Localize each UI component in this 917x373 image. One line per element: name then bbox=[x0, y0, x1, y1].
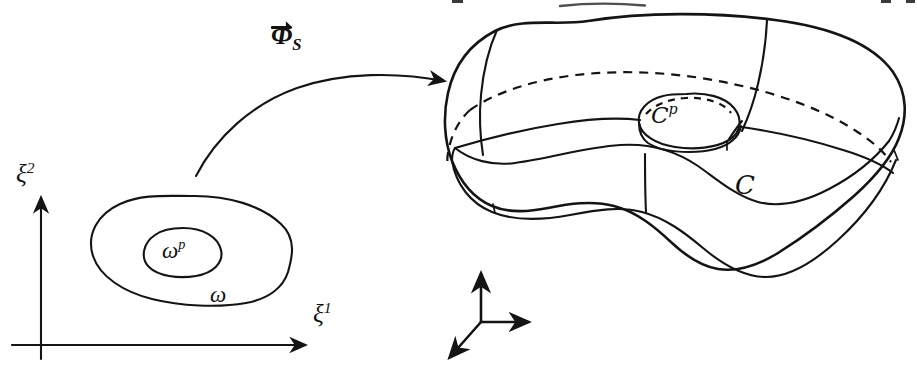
shell-rim-right-cap bbox=[889, 118, 899, 141]
patch-band-tick-left bbox=[640, 125, 641, 132]
region-label-omega-p: ωp bbox=[162, 237, 185, 262]
patch-label-C-p: Cp bbox=[651, 102, 678, 127]
axis-label-xi1: ξ1 bbox=[313, 300, 331, 326]
shell-band-tick-right bbox=[894, 150, 898, 160]
shell-seam-latitude-left bbox=[455, 119, 640, 148]
plane-axes bbox=[12, 198, 305, 359]
axis-label-xi2: ξ2 bbox=[16, 160, 34, 186]
shell-seam-latitude-right bbox=[742, 127, 893, 173]
shell-rim-left-cap bbox=[452, 148, 455, 161]
shell-seam-right bbox=[742, 20, 767, 131]
mapping-arrow bbox=[196, 75, 444, 176]
shell-surface bbox=[445, 14, 905, 277]
surface-label-C: C bbox=[735, 172, 755, 198]
mapping-label-phi: ΦS bbox=[271, 22, 302, 54]
vector-arrow-icon bbox=[271, 10, 293, 24]
omega-region bbox=[91, 196, 292, 306]
triad-axis-out bbox=[450, 322, 481, 357]
coordinate-triad bbox=[450, 274, 528, 357]
shell-silhouette bbox=[445, 14, 905, 270]
shell-seam-front-left bbox=[645, 154, 646, 212]
shell-mapping-figure: ξ2 ξ1 ω ωp ΦS C Cp bbox=[0, 0, 917, 373]
shell-band-bottom bbox=[452, 160, 896, 277]
omega-outline bbox=[91, 196, 292, 306]
scan-artifacts bbox=[452, 0, 915, 6]
figure-canvas bbox=[0, 0, 917, 373]
mapping-arrow-curve bbox=[196, 75, 444, 176]
region-label-omega: ω bbox=[210, 283, 226, 306]
